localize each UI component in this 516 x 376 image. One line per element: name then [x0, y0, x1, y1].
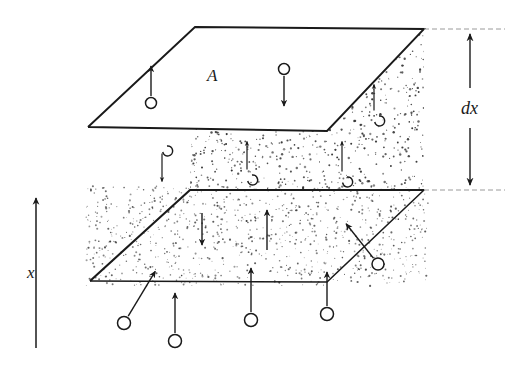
molecule-up-bottom-left: [169, 293, 182, 348]
molecule-circle: [375, 116, 385, 126]
molecule-circle: [321, 308, 334, 321]
area-label: A: [207, 66, 217, 86]
molecule-circle: [146, 98, 157, 109]
molecule-circle: [118, 317, 131, 330]
molecule-circle: [169, 335, 182, 348]
molecule-down-below-top-plane: [162, 146, 173, 182]
lower-plane-group: [86, 185, 429, 287]
thickness-label: dx: [461, 98, 478, 119]
molecule-circle: [245, 314, 258, 327]
molecule-circle: [163, 146, 173, 156]
molecule-up-center-slab: [247, 142, 258, 185]
physics-slab-diagram: [0, 0, 516, 376]
x-axis-label: x: [27, 263, 35, 283]
molecule-up-right-slab: [342, 142, 353, 187]
molecule-circle: [372, 258, 384, 270]
molecule-circle: [279, 64, 290, 75]
molecule-circle: [248, 175, 258, 185]
